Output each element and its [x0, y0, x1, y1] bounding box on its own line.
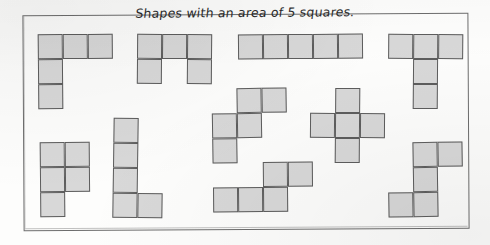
i-pentomino — [238, 33, 363, 59]
shape-square — [137, 34, 162, 59]
shape-square — [88, 34, 113, 59]
shape-square — [261, 87, 286, 112]
shape-square — [288, 162, 313, 187]
shape-square — [65, 167, 90, 192]
shape-square — [137, 193, 162, 218]
shape-square — [388, 192, 413, 217]
shape-square — [113, 143, 138, 168]
shape-square — [212, 138, 237, 163]
p-pentomino — [40, 142, 91, 217]
shape-square — [113, 168, 138, 193]
shape-square — [38, 34, 63, 59]
shape-square — [263, 34, 288, 59]
shape-square — [137, 59, 162, 84]
x-pentomino — [310, 88, 386, 164]
shape-square — [40, 192, 65, 217]
shape-square — [237, 113, 262, 138]
shape-square — [162, 34, 187, 59]
shape-square — [213, 187, 238, 212]
shape-square — [187, 59, 212, 84]
shape-square — [40, 142, 65, 167]
shape-square — [310, 113, 335, 138]
n-pentomino — [213, 162, 313, 213]
shape-square — [413, 167, 438, 192]
shape-square — [263, 162, 288, 187]
shape-square — [413, 192, 438, 217]
worksheet-page: Shapes with an area of 5 squares. — [0, 0, 490, 245]
shape-square — [38, 59, 63, 84]
shape-square — [65, 142, 90, 167]
shape-square — [63, 34, 88, 59]
pentomino-collection — [0, 0, 490, 245]
shape-square — [335, 88, 360, 113]
l-pentomino — [112, 118, 163, 219]
shape-square — [38, 84, 63, 109]
shape-square — [360, 113, 385, 138]
u-pentomino — [137, 34, 212, 85]
v-pentomino — [38, 34, 114, 110]
shape-square — [187, 34, 212, 59]
shape-square — [238, 34, 263, 59]
shape-square — [412, 142, 437, 167]
shape-square — [212, 113, 237, 138]
shape-square — [113, 118, 138, 143]
shape-square — [335, 138, 360, 163]
w-pentomino — [211, 87, 287, 163]
shape-square — [335, 113, 360, 138]
shape-square — [388, 34, 413, 59]
shape-square — [437, 141, 462, 166]
shape-square — [413, 84, 438, 109]
shape-square — [413, 59, 438, 84]
shape-square — [313, 34, 338, 59]
shape-square — [263, 187, 288, 212]
shape-square — [413, 34, 438, 59]
shape-square — [238, 187, 263, 212]
shape-square — [438, 34, 463, 59]
shape-square — [40, 167, 65, 192]
shape-square — [338, 33, 363, 58]
z-pentomino — [387, 141, 463, 217]
shape-square — [288, 34, 313, 59]
shape-square — [236, 88, 261, 113]
shape-square — [112, 193, 137, 218]
t-pentomino — [388, 34, 464, 110]
